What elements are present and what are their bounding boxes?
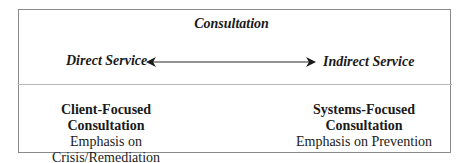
client-focused-column: Client-Focused Consultation Emphasis on … bbox=[24, 102, 188, 163]
client-focused-heading: Client-Focused Consultation bbox=[24, 102, 188, 134]
indirect-service-label: Indirect Service bbox=[323, 54, 414, 70]
systems-focused-column: Systems-Focused Consultation Emphasis on… bbox=[283, 102, 445, 150]
systems-focused-heading: Systems-Focused Consultation bbox=[283, 102, 445, 134]
section-divider bbox=[18, 84, 452, 85]
diagram-title: Consultation bbox=[0, 16, 463, 32]
double-headed-arrow-icon bbox=[146, 55, 316, 69]
direct-service-label: Direct Service bbox=[66, 53, 147, 69]
client-focused-subheading: Emphasis on Crisis/Remediation bbox=[24, 134, 188, 163]
systems-focused-subheading: Emphasis on Prevention bbox=[283, 134, 445, 150]
